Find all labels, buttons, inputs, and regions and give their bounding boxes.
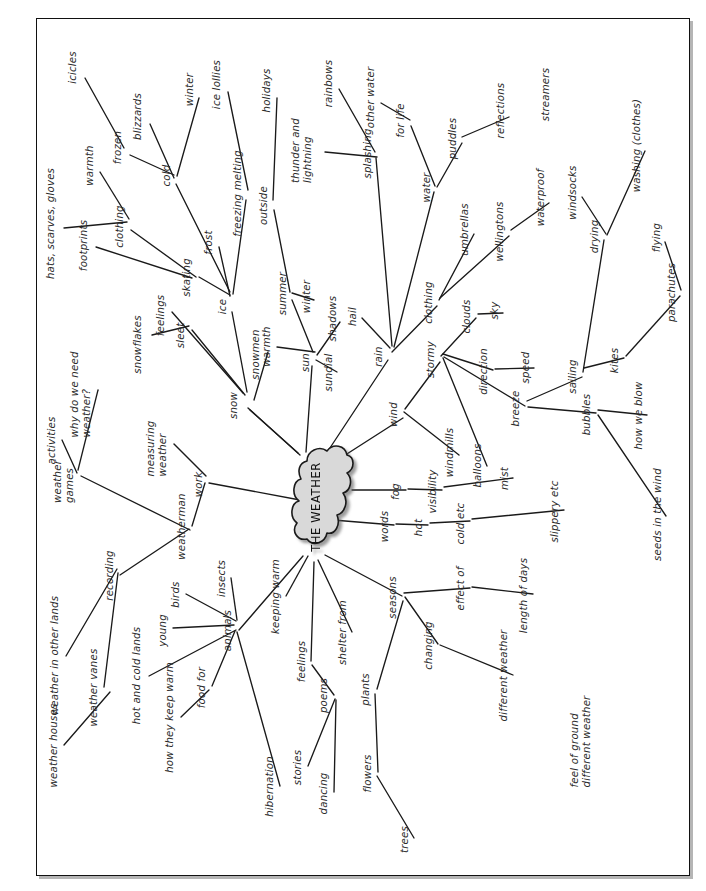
mindmap-node-flying[interactable]: flying bbox=[651, 223, 662, 252]
mindmap-node-cold_etc[interactable]: cold etc bbox=[455, 503, 466, 545]
mindmap-node-icicles[interactable]: icicles bbox=[67, 51, 78, 84]
mindmap-node-shelter_from[interactable]: shelter from bbox=[337, 600, 348, 665]
mindmap-node-activities[interactable]: activities bbox=[46, 417, 57, 465]
mindmap-node-stories[interactable]: stories bbox=[292, 750, 303, 786]
mindmap-node-sky[interactable]: sky bbox=[489, 302, 500, 320]
mindmap-node-winter_sun[interactable]: winter bbox=[301, 280, 312, 313]
mindmap-node-clouds[interactable]: clouds bbox=[461, 299, 472, 333]
mindmap-node-mist[interactable]: mist bbox=[499, 467, 510, 490]
mindmap-node-winter_top[interactable]: winter bbox=[184, 73, 195, 106]
mindmap-node-plants[interactable]: plants bbox=[360, 673, 371, 706]
mindmap-node-seeds[interactable]: seeds in the wind bbox=[652, 468, 663, 561]
mindmap-node-thunder[interactable]: thunder and lightning bbox=[290, 118, 313, 183]
mindmap-node-dancing[interactable]: dancing bbox=[318, 773, 329, 815]
mindmap-node-weather_other[interactable]: weather in other lands bbox=[49, 596, 60, 716]
mindmap-node-slippery[interactable]: slippery etc bbox=[549, 481, 560, 543]
mindmap-node-feel_ground[interactable]: feel of ground different weather bbox=[569, 695, 592, 787]
mindmap-node-wellingtons[interactable]: wellingtons bbox=[494, 201, 505, 261]
mindmap-node-breeze[interactable]: breeze bbox=[510, 390, 521, 426]
mindmap-node-streamers[interactable]: streamers bbox=[540, 68, 551, 122]
mindmap-node-birds[interactable]: birds bbox=[170, 581, 181, 607]
mindmap-node-sun[interactable]: sun bbox=[300, 353, 311, 372]
mindmap-node-balloons[interactable]: balloons bbox=[472, 443, 483, 487]
mindmap-node-kites[interactable]: kites bbox=[609, 348, 620, 373]
mindmap-node-visibility[interactable]: visibility bbox=[427, 470, 438, 514]
mindmap-node-for_life[interactable]: for life bbox=[395, 103, 406, 137]
mindmap-node-food_for[interactable]: food for bbox=[196, 667, 207, 708]
mindmap-node-warmth_sun[interactable]: warmth bbox=[261, 326, 272, 366]
mindmap-node-shadows[interactable]: shadows bbox=[327, 296, 338, 342]
mindmap-node-fog[interactable]: fog bbox=[390, 483, 401, 500]
mindmap-node-reflections[interactable]: reflections bbox=[495, 83, 506, 139]
mindmap-node-hats[interactable]: hats, scarves, gloves bbox=[45, 168, 56, 279]
mindmap-node-clothing_rain[interactable]: clothing bbox=[423, 281, 434, 323]
mindmap-node-hot_cold_lands[interactable]: hot and cold lands bbox=[131, 627, 142, 725]
mindmap-node-ice[interactable]: ice bbox=[217, 299, 228, 314]
mindmap-node-weather_games[interactable]: weather games bbox=[52, 460, 75, 503]
mindmap-node-cold[interactable]: cold bbox=[161, 165, 172, 187]
mindmap-node-waterproof[interactable]: waterproof bbox=[535, 169, 546, 227]
mindmap-node-how_we_blow[interactable]: how we blow bbox=[633, 381, 644, 449]
mindmap-node-weather_vanes[interactable]: weather vanes bbox=[88, 649, 99, 727]
mindmap-node-snowflakes[interactable]: snowflakes bbox=[132, 315, 143, 373]
mindmap-node-measuring[interactable]: measuring weather bbox=[145, 421, 168, 477]
mindmap-node-weatherman[interactable]: weatherman bbox=[176, 493, 187, 559]
mindmap-node-weather_houses[interactable]: weather houses bbox=[48, 704, 59, 788]
mindmap-node-windsocks[interactable]: windsocks bbox=[567, 165, 578, 219]
mindmap-node-ice_lollies[interactable]: ice lollies bbox=[211, 60, 222, 109]
mindmap-node-water[interactable]: water bbox=[421, 172, 432, 202]
mindmap-node-recording[interactable]: recording bbox=[104, 550, 115, 601]
mindmap-node-sailing[interactable]: sailing bbox=[567, 359, 578, 393]
mindmap-node-flowers[interactable]: flowers bbox=[362, 754, 373, 792]
mindmap-node-frost[interactable]: frost bbox=[203, 230, 214, 254]
mindmap-node-hot[interactable]: hot bbox=[413, 519, 424, 536]
mindmap-node-rainbows[interactable]: rainbows bbox=[323, 60, 334, 108]
mindmap-node-trees[interactable]: trees bbox=[399, 826, 410, 853]
mindmap-node-sleet[interactable]: sleet bbox=[175, 323, 186, 349]
mindmap-node-seasons[interactable]: seasons bbox=[387, 576, 398, 619]
mindmap-node-words[interactable]: words bbox=[379, 511, 390, 543]
mindmap-node-changing[interactable]: changing bbox=[423, 621, 434, 670]
mindmap-node-summer[interactable]: summer bbox=[277, 272, 288, 315]
mindmap-node-effect_of[interactable]: effect of bbox=[455, 566, 466, 610]
mindmap-node-keeping_warm[interactable]: keeping warm bbox=[270, 559, 281, 634]
mindmap-node-poems[interactable]: poems bbox=[318, 678, 329, 713]
mindmap-node-other_water[interactable]: other water bbox=[365, 67, 376, 129]
mindmap-node-blizzards[interactable]: blizzards bbox=[132, 93, 143, 140]
mindmap-node-animals[interactable]: animals bbox=[222, 610, 233, 651]
mindmap-node-umbrellas[interactable]: umbrellas bbox=[459, 203, 470, 255]
mindmap-node-wind[interactable]: wind bbox=[388, 402, 399, 427]
mindmap-node-snowmen[interactable]: snowmen bbox=[250, 329, 261, 379]
mindmap-node-different_weather[interactable]: different weather bbox=[498, 629, 509, 721]
mindmap-node-parachutes[interactable]: parachutes bbox=[666, 263, 677, 322]
mindmap-node-work[interactable]: work bbox=[193, 472, 204, 497]
mindmap-node-speed[interactable]: speed bbox=[520, 352, 531, 384]
mindmap-node-bubbles[interactable]: bubbles bbox=[581, 394, 592, 436]
mindmap-node-how_keep_warm[interactable]: how they keep warm bbox=[164, 662, 175, 773]
central-cloud-node[interactable]: THE WEATHER bbox=[289, 437, 357, 563]
mindmap-node-skating[interactable]: skating bbox=[181, 258, 192, 297]
mindmap-node-young[interactable]: young bbox=[157, 614, 168, 647]
mindmap-node-length_days[interactable]: length of days bbox=[518, 558, 529, 634]
mindmap-node-why_need[interactable]: why do we need weather? bbox=[69, 351, 92, 437]
mindmap-node-windmills[interactable]: windmills bbox=[444, 428, 455, 478]
mindmap-node-hibernation[interactable]: hibernation bbox=[264, 756, 275, 817]
mindmap-node-snow[interactable]: snow bbox=[228, 392, 239, 419]
mindmap-node-feelings_b[interactable]: feelings bbox=[296, 641, 307, 683]
mindmap-node-frozen[interactable]: frozen bbox=[112, 131, 123, 164]
mindmap-node-sundial[interactable]: sundial bbox=[323, 354, 334, 392]
mindmap-node-outside[interactable]: outside bbox=[258, 186, 269, 225]
mindmap-node-starry[interactable]: stormy bbox=[425, 341, 436, 378]
mindmap-node-freezing[interactable]: freezing melting bbox=[232, 150, 243, 237]
mindmap-node-washing[interactable]: washing (clothes) bbox=[631, 99, 642, 192]
mindmap-node-drying[interactable]: drying bbox=[589, 220, 600, 254]
mindmap-node-footprints[interactable]: footprints bbox=[78, 220, 89, 271]
mindmap-node-warmth_cl[interactable]: warmth bbox=[84, 145, 95, 185]
mindmap-node-rain[interactable]: rain bbox=[373, 346, 384, 367]
mindmap-node-feelings_snow[interactable]: feelings bbox=[155, 295, 166, 337]
mindmap-node-puddles[interactable]: puddles bbox=[447, 118, 458, 160]
mindmap-node-clothing_ice[interactable]: clothing bbox=[114, 205, 125, 247]
mindmap-node-hail[interactable]: hail bbox=[347, 307, 358, 326]
mindmap-node-holidays[interactable]: holidays bbox=[261, 69, 272, 113]
mindmap-node-splashing[interactable]: splashing bbox=[362, 128, 373, 178]
